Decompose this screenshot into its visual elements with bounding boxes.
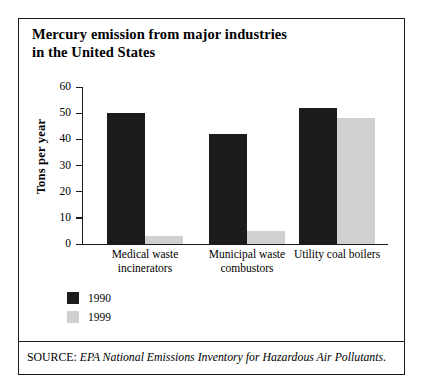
bar-1990-group-1 bbox=[107, 113, 145, 244]
figure-frame: Mercury emission from major industries i… bbox=[18, 18, 405, 375]
category-label-line: combustors bbox=[192, 262, 302, 276]
y-axis-tick bbox=[76, 87, 82, 88]
category-label: Medical wasteincinerators bbox=[90, 248, 200, 275]
category-label-line: Medical waste bbox=[90, 248, 200, 262]
legend-label-1990: 1990 bbox=[88, 292, 111, 304]
y-axis-tick bbox=[76, 217, 82, 218]
y-axis-tick-label: 20 bbox=[41, 186, 71, 198]
y-axis-tick bbox=[76, 165, 82, 166]
legend-item-1999: 1999 bbox=[67, 308, 111, 325]
category-label-line: Utility coal boilers bbox=[282, 248, 392, 262]
category-label: Utility coal boilers bbox=[282, 248, 392, 262]
legend-swatch-1999 bbox=[67, 311, 79, 323]
y-axis-tick bbox=[76, 244, 82, 245]
y-axis-tick bbox=[76, 139, 82, 140]
legend-item-1990: 1990 bbox=[67, 289, 111, 306]
x-axis-line bbox=[82, 244, 388, 245]
source-prefix: SOURCE: bbox=[27, 350, 77, 364]
y-axis-tick-label: 60 bbox=[41, 81, 71, 93]
bar-1999-group-3 bbox=[337, 118, 375, 244]
bar-1999-group-1 bbox=[145, 236, 183, 244]
chart-plot-area: Tons per year 0102030405060 Medical wast… bbox=[19, 19, 406, 294]
source-note: SOURCE: EPA National Emissions Inventory… bbox=[27, 350, 386, 365]
bar-1990-group-2 bbox=[209, 134, 247, 244]
y-axis-tick-label: 50 bbox=[41, 107, 71, 119]
y-axis-line bbox=[82, 87, 83, 245]
y-axis-tick-label: 30 bbox=[41, 160, 71, 172]
y-axis-tick bbox=[76, 191, 82, 192]
y-axis-tick-label: 40 bbox=[41, 133, 71, 145]
source-divider bbox=[19, 341, 404, 342]
legend-label-1999: 1999 bbox=[88, 311, 111, 323]
bar-1990-group-3 bbox=[299, 108, 337, 244]
y-axis-tick-label: 10 bbox=[41, 212, 71, 224]
y-axis-tick bbox=[76, 113, 82, 114]
category-label-line: incinerators bbox=[90, 262, 200, 276]
legend-swatch-1990 bbox=[67, 292, 79, 304]
source-citation: EPA National Emissions Inventory for Haz… bbox=[80, 350, 386, 364]
y-axis-tick-label: 0 bbox=[41, 238, 71, 250]
bar-1999-group-2 bbox=[247, 231, 285, 244]
chart-legend: 19901999 bbox=[67, 289, 111, 327]
